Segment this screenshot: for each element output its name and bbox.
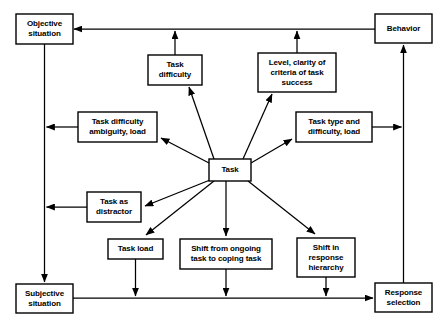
flow-diagram — [0, 0, 447, 324]
node-shift-in-response-hierarchy[interactable] — [297, 238, 355, 277]
node-task-difficulty-ambiguity-load[interactable] — [78, 112, 157, 142]
node-level-clarity-criteria[interactable] — [258, 53, 336, 92]
node-shift-from-ongoing-task[interactable] — [180, 239, 272, 269]
node-task-load[interactable] — [108, 239, 163, 259]
node-task[interactable] — [209, 159, 251, 181]
node-task-difficulty[interactable] — [148, 55, 202, 85]
diagram-canvas-container: Objective situation Behavior Task diffic… — [0, 0, 447, 324]
edge-task-to-task-as-distractor — [145, 180, 210, 206]
edge-task-to-task-difficulty-ambiguity — [161, 138, 209, 163]
node-behavior[interactable] — [375, 14, 432, 43]
edge-task-to-task-type-difficulty — [251, 139, 292, 163]
edge-task-to-task-load — [146, 181, 214, 235]
node-response-selection[interactable] — [375, 283, 432, 312]
node-objective-situation[interactable] — [16, 14, 73, 44]
node-subjective-situation[interactable] — [16, 284, 73, 313]
edge-task-to-shift-in-response-hierarchy — [248, 181, 315, 234]
node-task-type-difficulty-load[interactable] — [296, 112, 372, 142]
edge-task-to-task-difficulty — [189, 87, 214, 159]
node-task-as-distractor[interactable] — [87, 192, 141, 222]
edge-task-to-level-clarity — [243, 94, 272, 159]
